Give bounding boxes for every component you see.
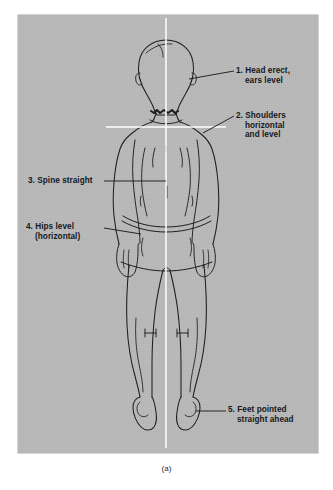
figure-root: 1. Head erect,ears level 2. Shouldershor… (0, 0, 333, 490)
annotation-5-line1: Feet pointed (237, 405, 286, 414)
annotation-5-feet: 5. Feet pointedstraight ahead (228, 405, 294, 424)
annotation-4-hips: 4. Hips level(horizontal) (26, 222, 80, 241)
annotation-5-line2: straight ahead (228, 415, 294, 425)
annotation-2-line2: horizontal (236, 121, 286, 131)
annotation-1-head: 1. Head erect,ears level (236, 66, 290, 85)
annotation-1-number: 1. (236, 66, 243, 76)
annotation-4-line2: (horizontal) (26, 232, 80, 242)
annotation-2-line3: and level (236, 130, 286, 140)
annotation-2-shoulders: 2. Shouldershorizontaland level (236, 111, 286, 140)
annotation-2-line1: Shoulders (245, 111, 285, 120)
annotation-4-line1: Hips level (35, 222, 74, 231)
annotation-3-spine: 3. Spine straight (28, 176, 93, 186)
annotation-3-number: 3. (28, 176, 35, 186)
annotation-1-line2: ears level (236, 76, 290, 86)
annotation-4-number: 4. (26, 222, 33, 232)
figure-caption: (a) (0, 464, 333, 473)
annotation-5-number: 5. (228, 405, 235, 415)
annotation-3-line1: Spine straight (37, 176, 92, 185)
annotation-1-line1: Head erect, (245, 66, 290, 75)
annotation-2-number: 2. (236, 111, 243, 121)
